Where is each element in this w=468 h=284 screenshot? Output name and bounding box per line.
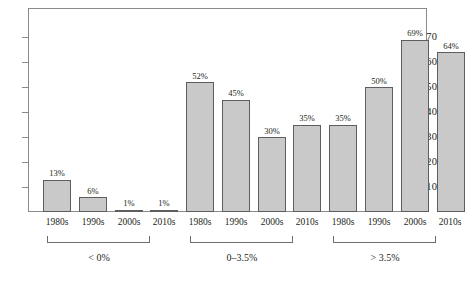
y-axis-tick [22, 162, 29, 163]
bar [222, 100, 250, 213]
group-bracket [47, 236, 150, 243]
bar-value-label: 13% [43, 169, 71, 178]
y-axis-tick [22, 187, 29, 188]
x-axis-label: 2000s [254, 217, 290, 227]
bar-value-label: 50% [365, 77, 393, 86]
bar [115, 210, 143, 213]
y-axis-tick [22, 87, 29, 88]
x-axis-label: 1980s [325, 217, 361, 227]
x-axis-label: 1990s [218, 217, 254, 227]
bar-value-label: 35% [293, 114, 321, 123]
y-axis-tick [22, 62, 29, 63]
bar [365, 87, 393, 212]
bar [329, 125, 357, 213]
bar [437, 52, 465, 212]
x-axis-label: 1980s [182, 217, 218, 227]
x-axis-label: 1980s [39, 217, 75, 227]
bar-value-label: 6% [79, 187, 107, 196]
group-label: 0–3.5% [191, 252, 293, 263]
bar-value-label: 64% [437, 42, 465, 51]
bar [186, 82, 214, 212]
bar-value-label: 1% [115, 199, 143, 208]
bar [79, 197, 107, 212]
group-bracket [333, 236, 436, 243]
bar [293, 125, 321, 213]
bar-value-label: 30% [258, 127, 286, 136]
y-axis-tick [22, 112, 29, 113]
bar [401, 40, 429, 213]
y-axis-tick [22, 37, 29, 38]
y-axis-tick [22, 137, 29, 138]
group-label: > 3.5% [334, 252, 436, 263]
bar-value-label: 52% [186, 72, 214, 81]
bar-value-label: 69% [401, 29, 429, 38]
bar [43, 180, 71, 213]
x-axis-label: 1990s [75, 217, 111, 227]
bar-value-label: 35% [329, 114, 357, 123]
x-axis-label: 2000s [397, 217, 433, 227]
x-axis-label: 1990s [361, 217, 397, 227]
bar [150, 210, 178, 213]
x-axis-label: 2010s [432, 217, 468, 227]
bar-value-label: 45% [222, 89, 250, 98]
bar-value-label: 1% [150, 199, 178, 208]
group-label: < 0% [48, 252, 150, 263]
x-axis-label: 2010s [146, 217, 182, 227]
x-axis-label: 2010s [289, 217, 325, 227]
x-axis-label: 2000s [111, 217, 147, 227]
bar [258, 137, 286, 212]
group-bracket [190, 236, 293, 243]
